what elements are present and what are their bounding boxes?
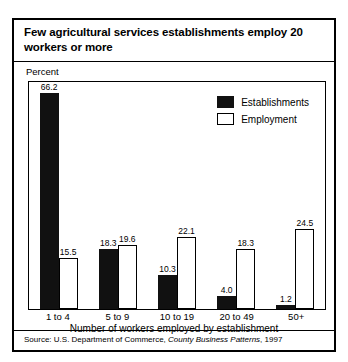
bar-value-label: 18.3 xyxy=(99,238,118,248)
x-tick-label: 20 to 49 xyxy=(216,311,258,322)
bar-establishments: 66.2 xyxy=(40,82,59,309)
legend-swatch-icon xyxy=(217,96,234,108)
bar-employment: 19.6 xyxy=(118,82,137,309)
bar-group: 66.2 15.5 xyxy=(40,82,78,309)
bar-establishments: 18.3 xyxy=(99,82,118,309)
source-note: Source: U.S. Department of Commerce, Cou… xyxy=(24,335,334,344)
chart-title: Few agricultural services establishments… xyxy=(24,25,324,54)
bar-rect xyxy=(295,229,314,309)
y-axis-label: Percent xyxy=(26,66,59,77)
bar-value-label: 19.6 xyxy=(118,234,137,244)
bar-employment: 15.5 xyxy=(59,82,78,309)
chart-figure: Few agricultural services establishments… xyxy=(12,18,336,352)
bar-value-label: 10.3 xyxy=(158,264,177,274)
bar-rect xyxy=(236,249,255,309)
bar-rect xyxy=(40,93,59,309)
source-suffix: , 1997 xyxy=(260,335,282,344)
bar-rect xyxy=(217,296,236,309)
x-tick-label: 5 to 9 xyxy=(96,311,138,322)
plot-area: 66.2 15.5 18.3 19.6 xyxy=(28,81,326,310)
x-tick-label: 50+ xyxy=(275,311,317,322)
bar-value-label: 4.0 xyxy=(217,285,236,295)
bar-rect xyxy=(99,249,118,309)
bar-value-label: 66.2 xyxy=(40,82,59,92)
source-publication: County Business Patterns xyxy=(168,335,260,344)
legend-label: Employment xyxy=(241,114,297,125)
bar-group: 10.3 22.1 xyxy=(158,82,196,309)
bar-rect xyxy=(118,245,137,309)
legend-item-employment: Employment xyxy=(217,113,309,125)
bar-group: 18.3 19.6 xyxy=(99,82,137,309)
bar-rect xyxy=(59,258,78,309)
bar-rect xyxy=(158,275,177,309)
plot-inner: 66.2 15.5 18.3 19.6 xyxy=(29,82,325,309)
bar-establishments: 10.3 xyxy=(158,82,177,309)
legend-item-establishments: Establishments xyxy=(217,96,309,108)
source-prefix: Source: U.S. Department of Commerce, xyxy=(24,335,168,344)
title-block: Few agricultural services establishments… xyxy=(14,20,334,62)
bar-employment: 22.1 xyxy=(177,82,196,309)
legend: Establishments Employment xyxy=(217,96,309,125)
source-block: Source: U.S. Department of Commerce, Cou… xyxy=(14,330,334,350)
bar-value-label: 22.1 xyxy=(177,226,196,236)
x-tick-label: 1 to 4 xyxy=(37,311,79,322)
bar-value-label: 18.3 xyxy=(236,238,255,248)
bar-value-label: 15.5 xyxy=(59,247,78,257)
x-tick-label: 10 to 19 xyxy=(156,311,198,322)
bar-rect xyxy=(276,305,295,309)
bar-rect xyxy=(177,237,196,309)
bar-value-label: 24.5 xyxy=(295,218,314,228)
legend-swatch-icon xyxy=(217,113,234,125)
legend-label: Establishments xyxy=(241,97,309,108)
bar-value-label: 1.2 xyxy=(276,294,295,304)
x-axis-tick-labels: 1 to 4 5 to 9 10 to 19 20 to 49 50+ xyxy=(28,311,326,322)
